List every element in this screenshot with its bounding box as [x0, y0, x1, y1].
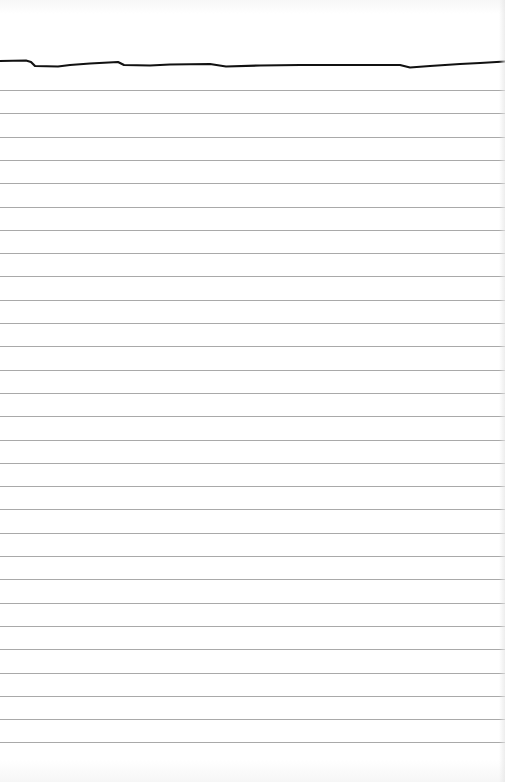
- hand-drawn-header-line: [0, 52, 505, 76]
- ruled-line: [0, 673, 505, 674]
- ruled-line: [0, 533, 505, 534]
- lined-paper-sheet: [0, 0, 505, 782]
- ruled-line: [0, 370, 505, 371]
- ruled-line: [0, 719, 505, 720]
- ruled-line: [0, 486, 505, 487]
- paper-edge-shadow: [499, 0, 505, 782]
- ruled-line: [0, 649, 505, 650]
- ruled-line: [0, 137, 505, 138]
- ruled-line: [0, 160, 505, 161]
- ruled-line: [0, 323, 505, 324]
- ruled-line: [0, 742, 505, 743]
- ruled-line: [0, 183, 505, 184]
- ruled-line: [0, 509, 505, 510]
- ruled-line: [0, 603, 505, 604]
- ruled-line: [0, 579, 505, 580]
- ruled-line: [0, 276, 505, 277]
- ruled-line: [0, 696, 505, 697]
- ruled-line: [0, 113, 505, 114]
- ruled-line: [0, 230, 505, 231]
- ruled-line: [0, 463, 505, 464]
- ruled-line: [0, 346, 505, 347]
- ruled-line: [0, 556, 505, 557]
- ruled-line: [0, 626, 505, 627]
- ruled-line: [0, 207, 505, 208]
- ruled-line: [0, 393, 505, 394]
- ruled-line: [0, 90, 505, 91]
- ruled-line: [0, 440, 505, 441]
- ruled-line: [0, 300, 505, 301]
- ruled-line: [0, 416, 505, 417]
- ruled-line: [0, 253, 505, 254]
